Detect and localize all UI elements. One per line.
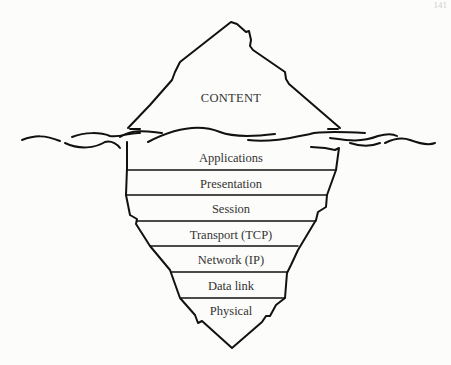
- layer-label-presentation: Presentation: [200, 177, 262, 192]
- iceberg-tip-outline: [128, 22, 340, 128]
- layer-label-applications: Applications: [199, 151, 263, 166]
- water-wave: [22, 136, 60, 141]
- water-wave: [385, 138, 435, 144]
- water-wave: [350, 143, 380, 146]
- content-label: CONTENT: [201, 91, 261, 106]
- layer-label-transport: Transport (TCP): [190, 228, 273, 243]
- layer-label-physical: Physical: [210, 304, 252, 319]
- layer-label-network: Network (IP): [198, 253, 264, 268]
- water-wave: [330, 134, 397, 140]
- water-wave: [65, 142, 120, 148]
- layer-label-data-link: Data link: [208, 279, 254, 294]
- water-wave: [120, 131, 162, 137]
- layer-label-session: Session: [212, 202, 250, 217]
